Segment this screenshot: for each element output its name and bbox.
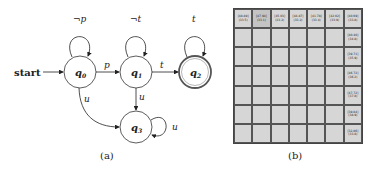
loop-q1: [126, 37, 146, 57]
grid-cell: [42.02](33.9): [325, 9, 343, 28]
grid-cell: [325, 86, 343, 105]
state-q0: q0: [64, 56, 96, 88]
cell-std: (33.8): [348, 19, 357, 23]
grid-cell: [252, 86, 270, 105]
cell-std: (33.1): [257, 19, 266, 23]
label-u-q0: u: [84, 94, 90, 104]
label-not-t: ¬t: [130, 14, 142, 24]
cell-std: (38.9): [348, 114, 357, 118]
loop-q2: [185, 37, 205, 57]
grid-cell: [252, 28, 270, 47]
grid-cell: [47.94](33.1): [252, 9, 270, 28]
label-p: p: [104, 60, 110, 70]
state-q3: q3: [120, 111, 152, 143]
grid-cell: [40.69](33.8): [344, 9, 362, 28]
cell-std: (34.8): [348, 38, 357, 42]
grid-cell: [307, 86, 325, 105]
grid-cell: [32.86](33.8): [344, 124, 362, 143]
grid-cell: [307, 124, 325, 143]
grid-cell: [252, 105, 270, 124]
grid-cell: [252, 47, 270, 66]
grid-cell: [325, 66, 343, 85]
start-label: start: [14, 67, 41, 78]
grid-cell: [325, 47, 343, 66]
grid-cell: [234, 66, 252, 85]
grid-cell: [271, 47, 289, 66]
grid-cell: [289, 66, 307, 85]
caption-b: (b): [288, 150, 302, 161]
grid-cell: [307, 28, 325, 47]
grid-cell: [45.03](33.2): [271, 9, 289, 28]
cell-std: (33.9): [330, 19, 339, 23]
grid-cell: [47.72](37.8): [344, 86, 362, 105]
grid-cell: [48.89](33.5): [234, 9, 252, 28]
cell-std: (33.2): [293, 19, 302, 23]
grid-cell: [289, 124, 307, 143]
grid-cell: [271, 124, 289, 143]
grid-cell: [46.72](36.2): [344, 66, 362, 85]
grid-cell: [271, 66, 289, 85]
grid-cell: [234, 105, 252, 124]
grid-cell: [234, 47, 252, 66]
cell-std: (37.8): [348, 95, 357, 99]
grid-cell: [234, 28, 252, 47]
grid-cell: [252, 66, 270, 85]
grid-cell: [289, 105, 307, 124]
grid-cell: [271, 105, 289, 124]
grid-cell: [307, 47, 325, 66]
caption-a: (a): [100, 150, 114, 161]
grid-cell: [307, 105, 325, 124]
grid-cell: [41.78](33.4): [307, 9, 325, 28]
grid-cell: [234, 86, 252, 105]
grid-cell: [289, 28, 307, 47]
grid-cell: [252, 124, 270, 143]
grid-world: [48.89](33.5)[47.94](33.1)[45.03](33.2)[…: [233, 8, 363, 144]
grid-cell: [44.87](33.2): [289, 9, 307, 28]
grid-cell: [271, 28, 289, 47]
grid-cell: [325, 28, 343, 47]
label-u-q1: u: [139, 92, 145, 102]
cell-std: (35.9): [348, 57, 357, 61]
grid-cell: [40.40](34.8): [344, 28, 362, 47]
grid-cell: [39.84](38.9): [344, 105, 362, 124]
grid-cell: [325, 124, 343, 143]
cell-std: (33.5): [239, 19, 248, 23]
state-q1: q1: [120, 56, 152, 88]
grid-cell: [234, 124, 252, 143]
cell-std: (33.8): [348, 133, 357, 137]
label-u-loop: u: [172, 122, 178, 132]
label-not-p: ¬p: [73, 14, 87, 24]
state-q2-accepting: q2: [179, 56, 211, 88]
cell-std: (36.2): [348, 76, 357, 80]
loop-q0: [70, 37, 90, 57]
grid-cell: [271, 86, 289, 105]
grid-cell: [289, 47, 307, 66]
grid-cell: [289, 86, 307, 105]
label-t: t: [160, 60, 164, 70]
grid-cell: [39.71](35.9): [344, 47, 362, 66]
label-t-loop: t: [192, 14, 196, 24]
grid-cell: [307, 66, 325, 85]
cell-std: (33.4): [312, 19, 321, 23]
loop-q3: [151, 117, 166, 136]
grid-cell: [325, 105, 343, 124]
cell-std: (33.2): [275, 19, 284, 23]
